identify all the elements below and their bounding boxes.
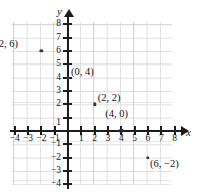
y-tick-label: 2	[47, 100, 61, 110]
x-tick-label: 4	[119, 134, 124, 144]
x-axis-line	[10, 130, 185, 132]
y-tick-label: −3	[47, 166, 61, 176]
x-tick-label: −3	[23, 134, 33, 144]
y-tick-mark	[63, 90, 72, 92]
point-coordinate-label: (2, 2)	[98, 93, 121, 104]
point-coordinate-label: (−2, 6)	[0, 39, 18, 50]
y-tick-label: 8	[47, 20, 61, 30]
x-tick-label: 3	[106, 134, 111, 144]
y-tick-mark	[63, 157, 72, 159]
y-tick-mark	[63, 50, 72, 52]
x-tick-label: 1	[79, 134, 84, 144]
x-tick-label: 8	[172, 134, 177, 144]
point-coordinate-label: (0, 4)	[71, 67, 94, 78]
y-tick-label: −4	[47, 180, 61, 190]
y-tick-label: 4	[47, 73, 61, 83]
y-tick-label: 1	[47, 118, 61, 128]
y-tick-mark	[63, 23, 72, 25]
y-axis-arrow-icon	[64, 9, 74, 17]
y-tick-mark	[63, 170, 72, 172]
y-tick-mark	[63, 117, 72, 119]
x-tick-label: 2	[92, 134, 97, 144]
y-tick-label: 5	[47, 60, 61, 70]
y-tick-label: 6	[47, 46, 61, 56]
y-axis-label: y	[57, 5, 62, 17]
y-tick-label: 7	[47, 33, 61, 43]
point-coordinate-label: (6, −2)	[150, 159, 179, 170]
y-tick-mark	[63, 103, 72, 105]
y-tick-mark	[63, 143, 72, 145]
x-tick-label: −4	[10, 134, 20, 144]
x-tick-label: 5	[132, 134, 137, 144]
y-tick-mark	[63, 183, 72, 185]
y-tick-mark	[63, 37, 72, 39]
x-tick-label: 7	[159, 134, 164, 144]
y-tick-label: −1	[47, 140, 61, 150]
point-coordinate-label: (4, 0)	[105, 109, 128, 120]
x-axis-label: x	[186, 126, 191, 138]
y-axis-line	[67, 13, 69, 189]
y-tick-label: 3	[47, 86, 61, 96]
x-tick-label: 6	[146, 134, 151, 144]
coordinate-plane-figure: x y −4−3−2−112345678 87654321−1−2−3−4 (−…	[0, 0, 198, 192]
y-tick-label: −2	[47, 153, 61, 163]
x-tick-label: −2	[36, 134, 46, 144]
